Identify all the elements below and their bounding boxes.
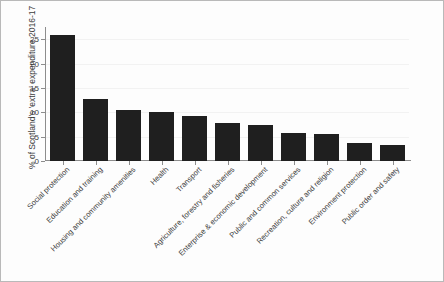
x-tick-label: Public order and safety [340,165,401,226]
bar [116,110,142,161]
x-axis-labels: Social protectionEducation and trainingH… [46,165,411,280]
bar [215,123,241,161]
plot-area [46,27,409,161]
x-tick-label: Education and training [44,165,104,225]
bar [380,145,406,161]
y-tick-mark [41,64,45,65]
y-tick-label: 25 [30,35,39,44]
bar [314,134,340,161]
bar [50,35,76,161]
bar [347,143,373,161]
y-tick-mark [41,137,45,138]
x-tick-label: Environment protection [306,165,368,227]
bar [83,99,109,161]
y-tick-label: 10 [30,108,39,117]
y-axis-ticks: 0510152025 [1,27,45,161]
bar [281,133,307,161]
bar [182,116,208,161]
y-tick-label: 15 [30,83,39,92]
gridline [46,64,409,65]
gridline [46,88,409,89]
y-tick-mark [41,112,45,113]
y-tick-label: 5 [35,132,39,141]
y-tick-mark [41,39,45,40]
bar [149,112,175,161]
bar [248,125,274,161]
gridline [46,39,409,40]
chart-figure: % of Scotland's 'extra' expenditure 2016… [0,0,444,282]
y-tick-mark [41,161,45,162]
y-tick-mark [41,88,45,89]
x-tick-label: Health [148,165,170,187]
x-tick-label: Transport [174,165,203,194]
y-tick-label: 0 [35,157,39,166]
y-tick-label: 20 [30,59,39,68]
